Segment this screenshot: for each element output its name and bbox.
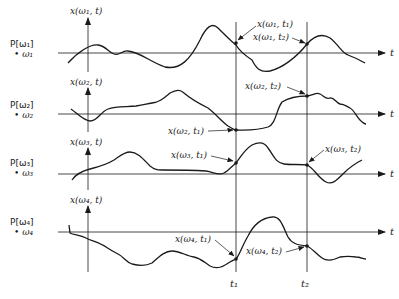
row-2-outcome-label: • ω₂ [14,110,33,120]
row-4-value-axis-label: x(ω₄, t) [70,195,102,205]
row-1-sample-path [68,25,365,71]
row-2-plot [58,87,385,132]
row-3-t1-sample-label: x(ω₃, t₁) [171,150,207,160]
random-process-diagram: P[ω₁] • ω₁ x(ω₁, t) x(ω₁, t₁) x(ω₁, t₂) … [0,0,399,299]
row-2-time-axis-label: t [390,108,394,119]
row-3-value-axis-label: x(ω₃, t) [70,137,102,147]
row-3-outcome-label: • ω₃ [14,168,33,178]
row-1-t2-sample-label: x(ω₁, t₂) [253,32,289,42]
row-3-sample-path [72,143,362,183]
row-3-probability-label: P[ω₃] [10,158,34,168]
t1-tick-label: t₁ [230,278,238,289]
row-1-t2-point [305,42,309,46]
row-2-sample-path [71,90,366,130]
row-4-t1-point [234,257,238,261]
row-1-plot [58,18,385,72]
row-4-t2-sample-label: x(ω₄, t₂) [246,246,282,256]
row-3-t2-leader [309,150,324,162]
row-4-t1-leader [215,240,234,256]
row-2-t1-sample-label: x(ω₂, t₁) [168,126,204,136]
row-1-t1-point [234,41,238,45]
row-3-t1-point [234,161,238,165]
row-1-t1-sample-label: x(ω₁, t₁) [257,19,293,29]
row-4-t2-point [305,244,309,248]
row-4-t1-sample-label: x(ω₄, t₁) [175,234,211,244]
row-2-t2-sample-label: x(ω₂, t₂) [245,81,281,91]
row-2-t2-point [305,94,309,98]
row-2-t2-leader [287,87,305,94]
row-4-plot [58,206,385,272]
row-2-probability-label: P[ω₂] [10,100,34,110]
row-1-time-axis-label: t [390,47,394,58]
row-4-time-axis-label: t [390,226,394,237]
row-2-t1-point [234,128,238,132]
row-4-t2-leader [286,247,304,252]
row-3-t1-leader [211,156,233,161]
row-3-t2-sample-label: x(ω₃, t₂) [325,144,361,154]
row-2-value-axis-label: x(ω₂, t) [70,77,102,87]
row-4-probability-label: P[ω₄] [10,217,34,227]
row-1-outcome-label: • ω₁ [14,49,33,59]
row-3-time-axis-label: t [390,168,394,179]
row-2-t1-leader [208,130,233,131]
row-1-t2-leader [292,38,305,43]
t2-tick-label: t₂ [301,278,309,289]
row-1-probability-label: P[ω₁] [10,39,34,49]
row-1-value-axis-label: x(ω₁, t) [70,6,102,16]
row-3-t2-point [305,163,309,167]
row-4-outcome-label: • ω₄ [14,227,33,237]
